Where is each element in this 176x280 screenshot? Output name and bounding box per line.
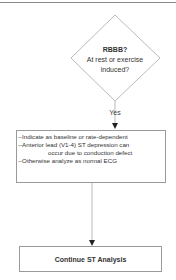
decision-question-line-2: induced?	[75, 65, 155, 75]
action-line-4: --Otherwise analyze as normal ECG	[18, 157, 117, 165]
terminal-box: Continue ST Analysis	[19, 246, 162, 272]
edge-label-yes: Yes	[103, 108, 127, 117]
action-line-2: --Anterior lead (V1-4) ST depression can	[18, 141, 129, 149]
decision-question-line-1: At rest or exercise	[75, 55, 155, 65]
terminal-label: Continue ST Analysis	[55, 256, 127, 263]
action-line-3: occur due to conduction defect	[48, 149, 132, 157]
action-box: --Indicate as baseline or rate-dependent…	[16, 130, 166, 183]
arrowhead-down-icon	[112, 123, 118, 129]
decision-title: RBBB?	[75, 45, 155, 55]
action-line-1: --Indicate as baseline or rate-dependent	[18, 133, 128, 141]
